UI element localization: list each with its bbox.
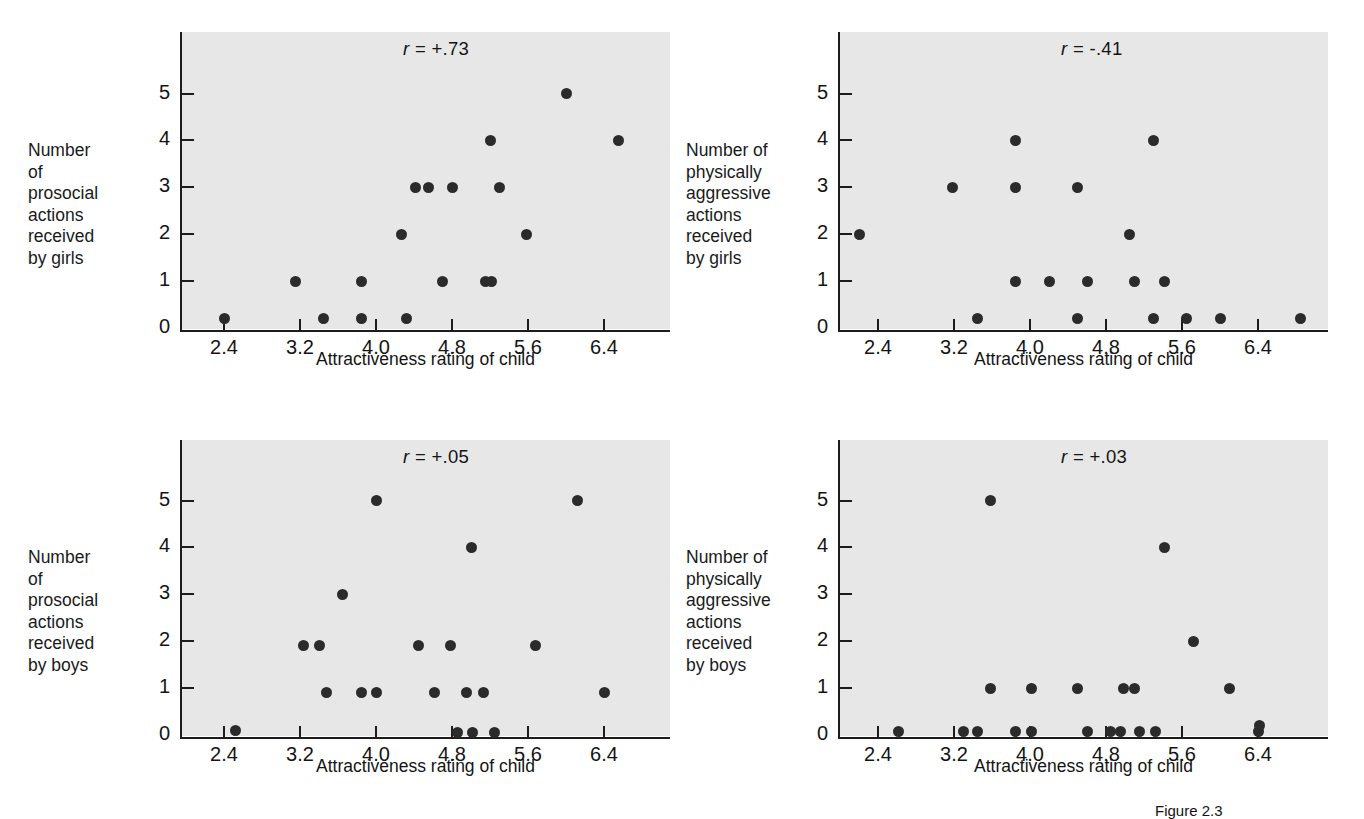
y-axis-tick-label: 1 bbox=[146, 268, 170, 291]
correlation-annotation: r = +.05 bbox=[403, 446, 469, 468]
y-axis-title-line: by boys bbox=[28, 655, 98, 677]
data-point bbox=[423, 182, 434, 193]
data-point bbox=[1082, 726, 1093, 737]
x-axis-tick bbox=[877, 319, 879, 331]
y-axis-tick bbox=[840, 593, 852, 595]
x-axis-line bbox=[180, 330, 670, 332]
data-point bbox=[396, 229, 407, 240]
data-point bbox=[1224, 683, 1235, 694]
data-point bbox=[219, 313, 230, 324]
y-axis-title-line: actions bbox=[686, 612, 771, 634]
y-axis-tick bbox=[840, 500, 852, 502]
data-point bbox=[561, 88, 572, 99]
y-axis-tick-label: 4 bbox=[146, 534, 170, 557]
y-axis-tick-label: 5 bbox=[146, 81, 170, 104]
y-axis-title-line: actions bbox=[686, 205, 771, 227]
x-axis-tick bbox=[1181, 726, 1183, 738]
data-point bbox=[461, 687, 472, 698]
data-point bbox=[985, 495, 996, 506]
y-axis-title: Number ofphysicallyaggressiveactionsrece… bbox=[686, 140, 771, 269]
x-axis-line bbox=[838, 737, 1328, 739]
data-point bbox=[494, 182, 505, 193]
correlation-symbol: r bbox=[1061, 446, 1067, 467]
data-point bbox=[613, 135, 624, 146]
data-point bbox=[371, 687, 382, 698]
data-point bbox=[1026, 683, 1037, 694]
y-axis-tick-label: 0 bbox=[804, 315, 828, 338]
data-point bbox=[486, 276, 497, 287]
y-axis-title-line: prosocial bbox=[28, 183, 98, 205]
y-axis-tick-label: 3 bbox=[804, 174, 828, 197]
data-point bbox=[1159, 276, 1170, 287]
plot-area bbox=[839, 440, 1328, 736]
y-axis-title: Number ofprosocialactionsreceivedby boys bbox=[28, 547, 98, 676]
y-axis-line bbox=[180, 440, 182, 739]
x-axis-tick bbox=[299, 319, 301, 331]
data-point bbox=[1072, 683, 1083, 694]
y-axis-tick bbox=[182, 186, 194, 188]
data-point bbox=[1150, 726, 1161, 737]
data-point bbox=[599, 687, 610, 698]
y-axis-tick-label: 5 bbox=[146, 488, 170, 511]
correlation-symbol: r bbox=[403, 446, 409, 467]
data-point bbox=[1072, 182, 1083, 193]
data-point bbox=[958, 726, 969, 737]
y-axis-title-line: by girls bbox=[686, 248, 771, 270]
y-axis-title-line: Number of bbox=[28, 140, 98, 183]
x-axis-tick bbox=[375, 319, 377, 331]
y-axis-tick bbox=[182, 280, 194, 282]
y-axis-title-line: Number of bbox=[686, 547, 771, 569]
y-axis-tick-label: 4 bbox=[146, 127, 170, 150]
plot-area bbox=[181, 32, 670, 329]
y-axis-tick bbox=[182, 233, 194, 235]
x-axis-tick bbox=[527, 726, 529, 738]
data-point bbox=[290, 276, 301, 287]
y-axis-title: Number ofphysicallyaggressiveactionsrece… bbox=[686, 547, 771, 676]
data-point bbox=[1188, 636, 1199, 647]
data-point bbox=[1129, 276, 1140, 287]
data-point bbox=[485, 135, 496, 146]
x-axis-tick bbox=[603, 319, 605, 331]
x-axis-tick bbox=[603, 726, 605, 738]
y-axis-line bbox=[838, 440, 840, 739]
data-point bbox=[1148, 135, 1159, 146]
y-axis-line bbox=[838, 32, 840, 332]
correlation-annotation: r = +.03 bbox=[1061, 446, 1127, 468]
data-point bbox=[1129, 683, 1140, 694]
x-axis-tick bbox=[451, 319, 453, 331]
data-point bbox=[1115, 726, 1126, 737]
y-axis-tick-label: 1 bbox=[146, 675, 170, 698]
x-axis-tick bbox=[1257, 319, 1259, 331]
data-point bbox=[985, 683, 996, 694]
y-axis-title-line: physically bbox=[686, 569, 771, 591]
y-axis-tick-label: 1 bbox=[804, 675, 828, 698]
y-axis-tick-label: 2 bbox=[804, 221, 828, 244]
x-axis-title: Attractiveness rating of child bbox=[839, 349, 1328, 370]
data-point bbox=[972, 726, 983, 737]
y-axis-title: Number ofprosocialactionsreceivedby girl… bbox=[28, 140, 98, 269]
y-axis-tick-label: 5 bbox=[804, 488, 828, 511]
data-point bbox=[1134, 726, 1145, 737]
correlation-annotation: r = -.41 bbox=[1061, 38, 1123, 60]
y-axis-tick-label: 5 bbox=[804, 81, 828, 104]
y-axis-tick-label: 0 bbox=[146, 315, 170, 338]
x-axis-title: Attractiveness rating of child bbox=[839, 756, 1328, 777]
y-axis-title-line: received bbox=[28, 226, 98, 248]
data-point bbox=[371, 495, 382, 506]
y-axis-title-line: prosocial bbox=[28, 590, 98, 612]
y-axis-tick-label: 2 bbox=[146, 628, 170, 651]
y-axis-tick-label: 4 bbox=[804, 127, 828, 150]
y-axis-title-line: by girls bbox=[28, 248, 98, 270]
plot-area bbox=[181, 440, 670, 736]
y-axis-tick-label: 2 bbox=[804, 628, 828, 651]
y-axis-tick bbox=[840, 640, 852, 642]
y-axis-title-line: actions bbox=[28, 612, 98, 634]
y-axis-tick-label: 0 bbox=[804, 722, 828, 745]
correlation-annotation: r = +.73 bbox=[403, 38, 469, 60]
y-axis-tick-label: 3 bbox=[804, 581, 828, 604]
y-axis-tick-label: 1 bbox=[804, 268, 828, 291]
x-axis-tick bbox=[953, 726, 955, 738]
correlation-symbol: r bbox=[403, 38, 409, 59]
y-axis-tick bbox=[840, 139, 852, 141]
y-axis-tick-label: 3 bbox=[146, 581, 170, 604]
